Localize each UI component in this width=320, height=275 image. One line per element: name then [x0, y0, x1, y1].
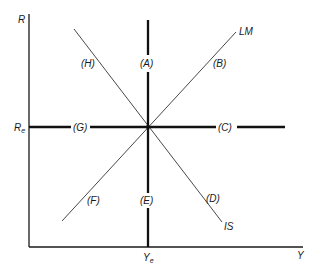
is-lm-diagram: R Y Re Ye LM IS (A) (B) (C) (D) (E) (F) …	[0, 0, 320, 275]
region-c-label: (C)	[218, 122, 232, 133]
lm-label: LM	[239, 26, 254, 37]
x-axis-label: Y	[297, 250, 305, 261]
region-g-label: (G)	[73, 122, 87, 133]
region-b-label: (B)	[213, 58, 226, 69]
is-label: IS	[224, 221, 234, 232]
region-d-label: (D)	[206, 193, 220, 204]
equilibrium-point	[146, 125, 150, 129]
region-a-label: (A)	[140, 58, 153, 69]
ye-label: Ye	[143, 252, 154, 264]
y-axis-label: R	[18, 14, 25, 25]
region-h-label: (H)	[81, 58, 95, 69]
region-e-label: (E)	[140, 195, 153, 206]
re-label: Re	[14, 122, 25, 134]
region-f-label: (F)	[87, 195, 100, 206]
